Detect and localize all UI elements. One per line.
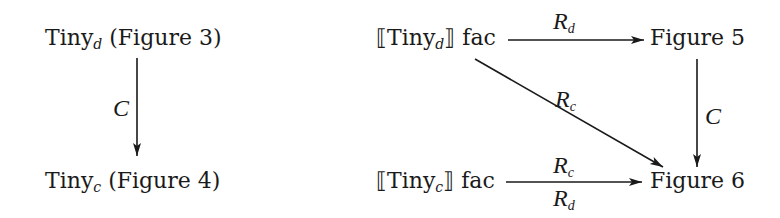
node-tiny-d-fac: ⟦Tinyd⟧ fac bbox=[376, 25, 496, 51]
node-subscript: c bbox=[435, 179, 443, 195]
node-tiny-d-figure-3: Tinyd (Figure 3) bbox=[45, 25, 222, 51]
label-subscript: c bbox=[568, 165, 574, 180]
node-suffix: (Figure 4) bbox=[101, 168, 220, 193]
node-suffix: fac bbox=[455, 25, 496, 50]
semantic-bracket-close: ⟧ bbox=[444, 25, 455, 50]
label-base: R bbox=[553, 185, 568, 211]
bottom-arrow-label-above-r-c: Rc bbox=[553, 152, 574, 178]
node-suffix: (Figure 3) bbox=[102, 25, 221, 50]
label-base: R bbox=[553, 8, 568, 34]
node-tiny-c-fac: ⟦Tinyc⟧ fac bbox=[376, 168, 495, 194]
node-figure-5: Figure 5 bbox=[650, 25, 745, 51]
node-base: Tiny bbox=[45, 168, 93, 193]
node-subscript: d bbox=[435, 36, 444, 52]
node-base: Tiny bbox=[387, 25, 435, 50]
right-arrow-label-c: C bbox=[705, 103, 721, 129]
semantic-bracket-close: ⟧ bbox=[443, 168, 454, 193]
top-arrow-label-r-d: Rd bbox=[553, 8, 575, 34]
node-base: Tiny bbox=[45, 25, 93, 50]
left-arrow-label-c: C bbox=[113, 95, 129, 121]
label-subscript: d bbox=[568, 198, 575, 213]
label-subscript: c bbox=[570, 99, 576, 114]
node-subscript: d bbox=[93, 36, 102, 52]
node-suffix: fac bbox=[454, 168, 495, 193]
semantic-bracket-open: ⟦ bbox=[376, 25, 387, 50]
semantic-bracket-open: ⟦ bbox=[376, 168, 387, 193]
node-subscript: c bbox=[93, 179, 101, 195]
node-base: Tiny bbox=[387, 168, 435, 193]
label-base: R bbox=[553, 152, 568, 178]
label-subscript: d bbox=[568, 21, 575, 36]
label-base: R bbox=[555, 86, 570, 112]
node-tiny-c-figure-4: Tinyc (Figure 4) bbox=[45, 168, 220, 194]
bottom-arrow-label-below-r-d: Rd bbox=[553, 185, 575, 211]
diagonal-arrow-label-r-c: Rc bbox=[555, 86, 576, 112]
node-figure-6: Figure 6 bbox=[650, 168, 745, 194]
